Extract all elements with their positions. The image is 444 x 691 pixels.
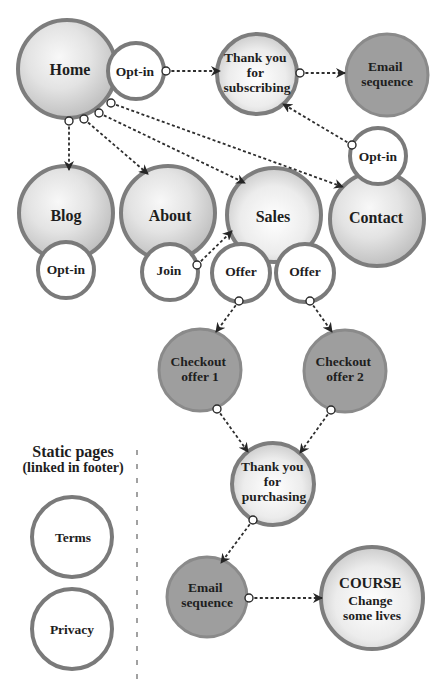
connector-dot <box>249 516 257 524</box>
node-contact[interactable]: Contact <box>330 172 424 266</box>
connector-dot <box>235 297 243 305</box>
contact-label: Contact <box>349 209 404 226</box>
node-checkout-offer-2[interactable]: Checkout offer 2 <box>304 330 386 412</box>
static-pages-heading: Static pages <box>32 443 113 461</box>
sitemap-diagram: Home Thank you for subscribing Email seq… <box>0 0 444 691</box>
join-label: Join <box>157 263 182 278</box>
node-email-sequence-top[interactable]: Email sequence <box>346 34 428 116</box>
static-pages-subheading: (linked in footer) <box>22 460 123 476</box>
node-terms[interactable]: Terms <box>32 497 112 577</box>
offer-2-label: Offer <box>289 264 320 279</box>
connector-dot <box>80 115 88 123</box>
terms-label: Terms <box>55 530 91 545</box>
node-contact-optin[interactable]: Opt-in <box>350 128 406 184</box>
offer-1-label: Offer <box>225 264 256 279</box>
node-checkout-offer-1[interactable]: Checkout offer 1 <box>159 329 241 411</box>
node-privacy[interactable]: Privacy <box>32 589 112 669</box>
node-blog-optin[interactable]: Opt-in <box>38 242 94 298</box>
edge-contact-optin-to-thank-you <box>283 104 352 145</box>
node-home-optin[interactable]: Opt-in <box>108 43 164 99</box>
sales-label: Sales <box>256 208 291 225</box>
connector-dot <box>95 109 103 117</box>
home-optin-label: Opt-in <box>116 64 155 79</box>
connector-dot <box>107 99 115 107</box>
connector-dot <box>65 117 73 125</box>
node-email-sequence-bottom[interactable]: Email sequence <box>167 557 247 637</box>
node-offer-1[interactable]: Offer <box>212 244 270 302</box>
connector-dot <box>306 297 314 305</box>
node-thank-you-subscribing[interactable]: Thank you for subscribing <box>217 34 297 114</box>
node-offer-2[interactable]: Offer <box>276 244 334 302</box>
node-course[interactable]: COURSE Change some lives <box>321 547 423 649</box>
edge-thank-you-purchasing-to-email <box>221 520 253 563</box>
blog-label: Blog <box>50 207 81 225</box>
home-label: Home <box>50 61 91 78</box>
connector-dot <box>296 69 304 77</box>
contact-optin-label: Opt-in <box>359 149 398 164</box>
privacy-label: Privacy <box>50 622 94 637</box>
node-home[interactable]: Home <box>18 20 116 118</box>
static-pages-section: Static pages (linked in footer) Terms Pr… <box>22 443 137 680</box>
edge-checkout-2-to-thank-you-purchasing <box>300 410 331 453</box>
email-sequence-top-label: Email sequence <box>361 59 413 89</box>
course-label: COURSE Change some lives <box>339 575 405 623</box>
node-join[interactable]: Join <box>142 244 198 300</box>
edge-checkout-1-to-thank-you-purchasing <box>217 409 248 452</box>
connector-dot <box>213 405 221 413</box>
about-label: About <box>149 207 192 224</box>
connector-dot <box>193 261 201 269</box>
edge-offer-2-to-checkout-2 <box>310 301 332 332</box>
edge-offer-1-to-checkout-1 <box>216 301 239 332</box>
edge-home-to-about <box>84 119 148 174</box>
connector-dot <box>327 406 335 414</box>
email-sequence-bottom-label: Email sequence <box>181 580 233 610</box>
connector-dot <box>245 594 253 602</box>
node-thank-you-purchasing[interactable]: Thank you for purchasing <box>232 443 314 525</box>
blog-optin-label: Opt-in <box>47 262 86 277</box>
connector-dot <box>162 67 170 75</box>
connector-dot <box>348 141 356 149</box>
